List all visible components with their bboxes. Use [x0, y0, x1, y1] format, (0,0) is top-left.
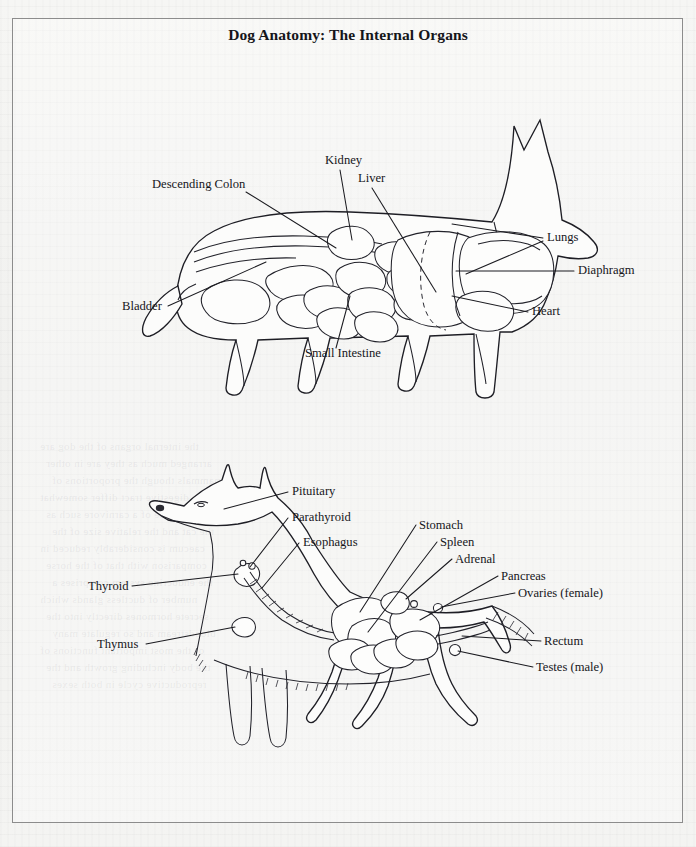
- organ-label-stomach: Stomach: [419, 518, 464, 532]
- leader-ovaries: [441, 593, 515, 607]
- chest-fur: [194, 648, 206, 672]
- organ-label-esophagus: Esophagus: [303, 535, 358, 549]
- organ-label-pituitary: Pituitary: [292, 484, 336, 498]
- organ-label-adrenal: Adrenal: [455, 552, 496, 566]
- leader-testes: [458, 651, 533, 667]
- leader-adrenal: [406, 559, 452, 599]
- organ-label-ovaries-female: Ovaries (female): [518, 586, 603, 600]
- leader-thyroid: [132, 574, 238, 586]
- organ-label-thyroid: Thyroid: [88, 579, 129, 593]
- leader-thymus: [146, 627, 235, 644]
- organ-label-testes-male: Testes (male): [536, 660, 603, 674]
- testes-organ: [449, 644, 460, 655]
- organ-label-thymus: Thymus: [97, 637, 138, 651]
- organ-label-spleen: Spleen: [440, 535, 475, 549]
- organ-label-parathyroid: Parathyroid: [292, 510, 351, 524]
- leader-esophagus: [262, 543, 299, 588]
- organ-label-pancreas: Pancreas: [501, 569, 546, 583]
- leader-parathyroid: [250, 518, 288, 567]
- adrenal-organ-2: [411, 601, 418, 608]
- lower-figure: PituitaryParathyroidEsophagusThyroidThym…: [0, 0, 696, 847]
- organ-label-rectum: Rectum: [544, 634, 583, 648]
